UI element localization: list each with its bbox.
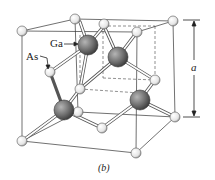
ga-atom [130,90,150,110]
crystal-structure-diagram [0,0,215,180]
as-atom [150,75,160,85]
as-label: As [26,51,38,62]
as-atom [131,148,141,158]
as-atom [17,136,27,146]
as-atom [17,26,27,36]
ga-label: Ga [50,38,63,49]
ga-atoms [54,35,150,120]
as-atom [45,67,55,77]
ga-atom [54,100,74,120]
as-atom [97,123,107,133]
as-atom [168,16,178,26]
ga-atom [78,35,98,55]
lattice-constant-label: a [191,62,197,73]
as-atom [75,84,85,94]
as-atom [70,14,80,24]
figure-caption: (b) [98,163,110,173]
as-atoms [17,14,180,158]
as-atom [73,107,83,117]
as-atom [170,112,180,122]
ga-atom [108,47,128,67]
as-atom [132,27,142,37]
as-atom [99,19,109,29]
